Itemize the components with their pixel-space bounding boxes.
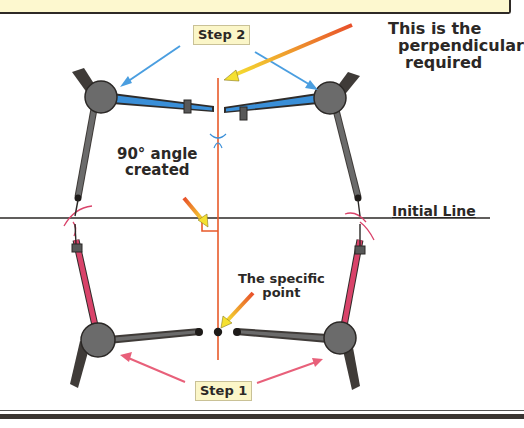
step-1-label: Step 1	[195, 381, 252, 401]
angle-note: 90° angle created	[117, 147, 197, 179]
angle-note-line-2: created	[117, 163, 197, 179]
point-note-line-1: The specific	[238, 272, 325, 286]
initial-line-label: Initial Line	[392, 203, 476, 219]
step-2-label: Step 2	[193, 25, 250, 45]
compass-top-left	[72, 68, 214, 216]
compass-bottom-right	[233, 224, 365, 390]
specific-point	[214, 328, 222, 336]
perpendicular-note-line-3: required	[388, 55, 524, 72]
point-note: The specific point	[238, 272, 325, 299]
bottom-divider-thick	[0, 414, 524, 419]
compass-top-right	[224, 72, 362, 216]
bottom-divider-thin	[0, 410, 524, 411]
point-note-line-2: point	[238, 286, 325, 300]
perpendicular-note: This is the perpendicular required	[388, 21, 524, 71]
compass-bottom-left	[70, 224, 203, 388]
